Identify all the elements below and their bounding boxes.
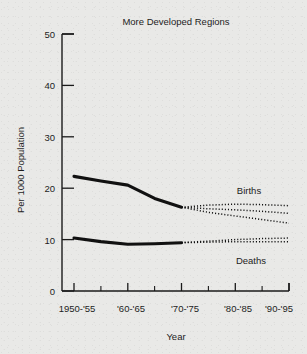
x-tick-90-95: '90-'95 — [265, 303, 293, 314]
x-axis-ticks — [74, 283, 289, 291]
y-axis-ticks — [62, 34, 74, 291]
chart-title: More Developed Regions — [122, 16, 229, 27]
chart-figure: More Developed Regions Per 1000 Populati… — [0, 0, 307, 354]
series-label-deaths: Deaths — [236, 255, 266, 266]
series-births-projection-low — [182, 207, 290, 223]
x-tick-80-85: '80-'85 — [224, 303, 252, 314]
series-label-births: Births — [237, 185, 262, 196]
x-axis-label: Year — [166, 331, 185, 342]
chart-svg: More Developed Regions Per 1000 Populati… — [0, 0, 307, 354]
y-tick-10: 10 — [44, 235, 55, 246]
y-axis-label: Per 1000 Population — [15, 127, 26, 213]
y-tick-0: 0 — [50, 286, 55, 297]
series-deaths-observed — [74, 238, 182, 244]
x-tick-1950-55: 1950-'55 — [59, 303, 96, 314]
x-tick-labels: 1950-'55 '60-'65 '70-'75 '80-'85 '90-'95 — [59, 303, 293, 314]
series-births-projection-high — [182, 204, 290, 207]
x-tick-60-65: '60-'65 — [117, 303, 145, 314]
series-deaths-projection-low — [182, 242, 290, 243]
y-tick-50: 50 — [44, 29, 55, 40]
y-tick-40: 40 — [44, 80, 55, 91]
y-tick-labels: 50 40 30 20 10 0 — [44, 29, 55, 297]
series-births-observed — [74, 176, 182, 207]
y-tick-20: 20 — [44, 183, 55, 194]
y-tick-30: 30 — [44, 132, 55, 143]
x-tick-70-75: '70-'75 — [171, 303, 199, 314]
